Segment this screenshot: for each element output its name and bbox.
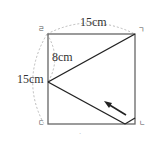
- arrow-line: [108, 104, 126, 115]
- segment-length: 8cm: [52, 51, 73, 63]
- arrow-head-icon: [104, 101, 112, 108]
- bottom-mark: ·: [79, 131, 81, 138]
- fold-edge: [125, 118, 135, 124]
- left-side-length: 15cm: [17, 73, 44, 85]
- square-outline: [48, 34, 135, 124]
- corner-label-bottom-right: ㄴ: [139, 120, 145, 127]
- top-side-length: 15cm: [80, 16, 107, 28]
- corner-label-top-right: ㄱ: [138, 27, 144, 34]
- corner-label-bottom-left: ㄷ: [38, 120, 44, 127]
- fold-line-lower: [48, 82, 125, 124]
- corner-label-top-left: ㄹ: [38, 26, 44, 33]
